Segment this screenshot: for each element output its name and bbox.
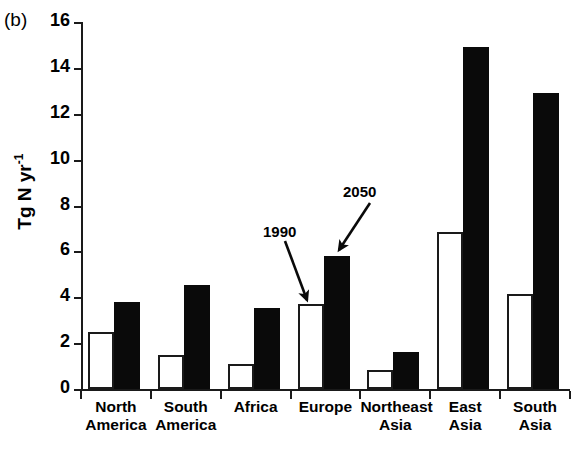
y-tick-mark bbox=[74, 343, 81, 345]
panel-label: (b) bbox=[4, 10, 27, 29]
bar-africa-1990 bbox=[228, 364, 254, 389]
y-axis-title: Tg N yr-1 bbox=[12, 122, 35, 262]
y-tick-mark bbox=[74, 160, 81, 162]
x-axis-label-africa: Africa bbox=[221, 398, 291, 416]
y-tick-mark bbox=[74, 297, 81, 299]
bar-africa-2050 bbox=[254, 308, 280, 389]
bar-east-asia-1990 bbox=[437, 232, 463, 389]
x-axis-line bbox=[81, 389, 570, 391]
plot-area: 0246810121416 bbox=[81, 22, 570, 389]
y-tick-label: 12 bbox=[50, 103, 70, 121]
x-axis-label-europe: Europe bbox=[291, 398, 361, 416]
y-tick-label: 2 bbox=[60, 332, 70, 350]
annotation-label-2050: 2050 bbox=[343, 184, 376, 199]
annotation-label-1990: 1990 bbox=[263, 224, 296, 239]
bar-europe-1990 bbox=[298, 304, 324, 389]
bar-east-asia-2050 bbox=[463, 47, 489, 389]
y-tick-mark bbox=[74, 114, 81, 116]
y-tick-mark bbox=[74, 22, 81, 24]
bar-south-america-2050 bbox=[184, 285, 210, 389]
y-axis-title-exponent: -1 bbox=[12, 154, 26, 165]
y-tick-label: 16 bbox=[50, 11, 70, 29]
y-tick-label: 8 bbox=[60, 195, 70, 213]
y-tick-mark bbox=[74, 206, 81, 208]
bar-south-america-1990 bbox=[158, 355, 184, 389]
bar-northeast-asia-2050 bbox=[393, 352, 419, 389]
y-tick-label: 6 bbox=[60, 240, 70, 258]
bar-europe-2050 bbox=[324, 256, 350, 389]
y-tick-label: 14 bbox=[50, 57, 70, 75]
y-tick-label: 0 bbox=[60, 378, 70, 396]
y-tick-mark bbox=[74, 251, 81, 253]
x-axis-label-north-america: North America bbox=[81, 398, 151, 433]
y-tick-label: 4 bbox=[60, 286, 70, 304]
x-axis-label-south-asia: South Asia bbox=[500, 398, 570, 433]
y-axis-title-text: Tg N yr bbox=[14, 164, 35, 229]
bar-north-america-1990 bbox=[88, 332, 114, 389]
y-tick-mark bbox=[74, 68, 81, 70]
bar-north-america-2050 bbox=[114, 302, 140, 389]
bar-south-asia-1990 bbox=[507, 294, 533, 389]
x-axis-label-east-asia: East Asia bbox=[430, 398, 500, 433]
y-tick-label: 10 bbox=[50, 149, 70, 167]
x-axis-label-northeast-asia: Northeast Asia bbox=[360, 398, 430, 433]
y-axis-line bbox=[81, 22, 83, 390]
bar-northeast-asia-1990 bbox=[367, 370, 393, 389]
x-axis-label-south-america: South America bbox=[151, 398, 221, 433]
bar-south-asia-2050 bbox=[533, 93, 559, 389]
figure-panel-b: (b) Tg N yr-1 0246810121416 North Americ… bbox=[0, 0, 576, 454]
